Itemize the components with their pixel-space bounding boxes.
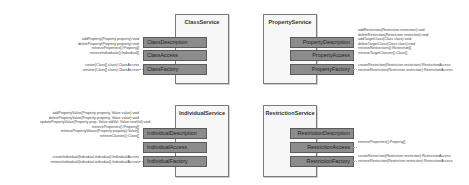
property-factory-component: PropertyFactory — [290, 64, 354, 75]
individual-description-component: IndividualDescription — [143, 128, 207, 139]
restriction-factory-connector — [353, 161, 357, 162]
restriction-factory-component: RestrictionFactory — [290, 156, 354, 167]
class-description-component: ClassDescription — [143, 37, 207, 48]
restriction-access-ops: retrieveProperties():Property[] — [358, 140, 405, 145]
class-description-ops: addProperty(Property property):void dele… — [65, 37, 139, 55]
restriction-factory-ops: createRestriction(Restriction restrictio… — [358, 154, 452, 163]
individual-description-ops: addPropertyValue(Property property, Valu… — [40, 111, 139, 138]
individual-access-component: IndividualAccess — [143, 142, 207, 153]
property-description-component: PropertyDescription — [290, 37, 354, 48]
property-service-title: PropertyService — [264, 19, 316, 25]
class-factory-connector — [139, 69, 143, 70]
individual-factory-ops: createIndividual(Individual individual):… — [40, 155, 139, 164]
individual-factory-component: IndividualFactory — [143, 156, 207, 167]
restriction-access-connector — [353, 147, 357, 148]
class-access-component: ClassAccess — [143, 50, 207, 61]
property-description-ops: addRestriction(Restriction restriction):… — [358, 28, 428, 55]
class-factory-component: ClassFactory — [143, 64, 207, 75]
class-service-title: ClassService — [176, 19, 228, 25]
individual-service-title: IndividualService — [176, 110, 228, 116]
property-access-component: PropertyAccess — [290, 50, 354, 61]
restriction-service-title: RestrictionService — [264, 110, 316, 116]
individual-factory-connector — [139, 161, 143, 162]
restriction-access-component: RestrictionAccess — [290, 142, 354, 153]
property-factory-ops: createRestriction(Restriction restrictio… — [358, 63, 452, 72]
restriction-description-component: RestrictionDescription — [290, 128, 354, 139]
class-factory-ops: create(Class[] class):ClassAccess retrie… — [65, 63, 139, 72]
property-factory-connector — [353, 69, 357, 70]
